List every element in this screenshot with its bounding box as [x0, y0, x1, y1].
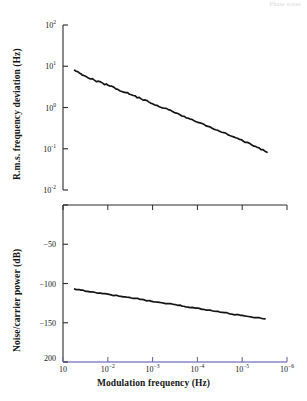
x-axis-tick-label: 10 [59, 365, 67, 374]
top-panel-y-tick-label: 102 [45, 21, 56, 30]
top-panel-data-curve [75, 70, 267, 152]
bottom-panel-y-tick-label: −150 [39, 318, 56, 327]
bottom-panel-y-ticks [63, 205, 68, 362]
top-panel-y-tick-label: 100 [45, 103, 56, 112]
x-axis-title: Modulation frequency (Hz) [0, 378, 307, 388]
x-axis-tick-label: 10−2 [101, 365, 115, 374]
x-axis-tick-label: 10−6 [280, 365, 294, 374]
bottom-panel-data-curve [75, 289, 265, 319]
bottom-panel-x-ticks [63, 357, 287, 362]
top-panel-y-tick-label: 10-2 [43, 186, 56, 195]
bottom-panel-y-tick-label: −50 [43, 240, 56, 249]
top-panel-y-tick-label: 10-1 [43, 144, 56, 153]
bottom-panel-y-tick-label: 200 [44, 354, 56, 363]
bottom-panel-top-ticks [63, 205, 287, 210]
top-panel-plot [0, 0, 307, 200]
top-panel-y-tick-label: 101 [45, 62, 56, 71]
bottom-panel-y-tick-label: −100 [39, 279, 56, 288]
x-axis-tick-label: 10−5 [235, 365, 249, 374]
x-axis-tick-label: 10−4 [190, 365, 204, 374]
bottom-panel-y-axis-title: Noise/carrier power (dB) [12, 249, 22, 352]
x-axis-tick-label: 10−3 [146, 365, 160, 374]
bottom-panel-axis-lines [63, 205, 287, 362]
top-panel-y-ticks [63, 25, 68, 190]
figure-container: Phase noise R.m.s. frequency deviation (… [0, 0, 307, 401]
